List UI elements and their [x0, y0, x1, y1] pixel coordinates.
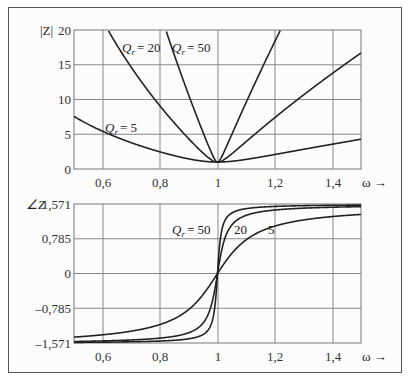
label-q50: Qr= 50: [172, 222, 211, 239]
x-tick: 1,2: [267, 349, 283, 364]
x-axis: 0,6 0,8 1 1,2 1,4 ω →: [95, 349, 387, 364]
y-tick: –1,571: [34, 336, 71, 351]
label-q5: 5: [268, 222, 275, 237]
x-tick: 1: [215, 349, 222, 364]
y-tick: 0: [65, 162, 72, 177]
x-axis-label: ω →: [362, 349, 387, 364]
x-tick: 1,4: [325, 349, 342, 364]
y-axis: |Z| 20 15 10 5 0: [40, 23, 71, 177]
x-axis: 0,6 0,8 1 1,2 1,4 ω →: [95, 175, 387, 190]
y-tick: 1,571: [42, 197, 71, 212]
y-tick: 0: [65, 266, 72, 281]
figure: |Z| 20 15 10 5 0 0,6 0,8 1 1,2 1,4 ω → Q…: [0, 0, 408, 379]
label-q20: Qr= 20: [122, 40, 161, 57]
label-q50: Qr= 50: [172, 40, 211, 57]
y-tick: –0,785: [34, 301, 71, 316]
label-q5: Qr= 5: [105, 120, 137, 137]
x-axis-label: ω →: [362, 175, 387, 190]
y-tick: 10: [58, 92, 71, 107]
y-tick: 15: [58, 57, 71, 72]
x-tick: 0,6: [95, 175, 112, 190]
label-q20: 20: [234, 222, 247, 237]
y-axis: ∠Z 1,571 0,785 0 –0,785 –1,571: [26, 197, 71, 351]
x-tick: 0,8: [152, 175, 168, 190]
x-tick: 0,8: [152, 349, 168, 364]
y-tick: 5: [65, 127, 72, 142]
phase-plot: ∠Z 1,571 0,785 0 –0,785 –1,571 0,6 0,8 1…: [26, 197, 387, 364]
y-tick: 20: [58, 23, 71, 38]
y-tick: 0,785: [42, 231, 71, 246]
annotations: Qr= 20 Qr= 50 Qr= 5: [105, 40, 211, 137]
x-tick: 1,2: [267, 175, 283, 190]
grid: [74, 30, 361, 169]
x-tick: 1: [215, 175, 222, 190]
x-tick: 1,4: [325, 175, 342, 190]
magnitude-plot: |Z| 20 15 10 5 0 0,6 0,8 1 1,2 1,4 ω → Q…: [40, 23, 387, 190]
y-axis-label: |Z|: [40, 23, 53, 38]
x-tick: 0,6: [95, 349, 112, 364]
